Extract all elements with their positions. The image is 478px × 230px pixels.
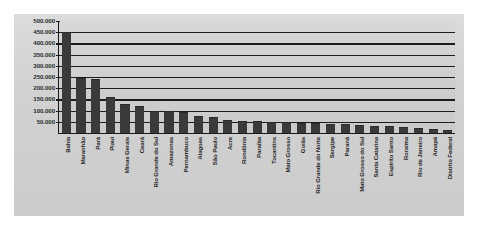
x-label-slot: Rio Grande do Sul	[146, 135, 161, 215]
bar	[150, 111, 159, 133]
bar-slot	[191, 21, 206, 133]
x-label-slot: São Paulo	[205, 135, 220, 215]
x-axis-category-label: Sergipe	[329, 137, 335, 158]
bar	[385, 126, 394, 133]
x-label-slot: Paraíba	[249, 135, 264, 215]
bar	[414, 128, 423, 133]
x-label-slot: Acre	[219, 135, 234, 215]
bar-slot	[382, 21, 397, 133]
x-axis-category-label: Amapá	[432, 137, 438, 157]
bar	[326, 124, 335, 133]
x-label-slot: Goiás	[293, 135, 308, 215]
x-axis-category-label: Alagoas	[197, 137, 203, 160]
bar	[106, 97, 115, 133]
plot-area	[58, 21, 455, 134]
bar-slot	[396, 21, 411, 133]
x-axis-category-label: Roraima	[403, 137, 409, 160]
x-label-slot: Alagoas	[190, 135, 205, 215]
bar-series	[59, 21, 455, 133]
x-axis-category-label: Bahia	[65, 137, 71, 153]
x-label-slot: Paraná	[337, 135, 352, 215]
x-label-slot: Espírito Santo	[381, 135, 396, 215]
x-axis-category-labels: BahiaMaranhãoParáPiauíMinas GeraisCearáR…	[58, 135, 454, 215]
x-label-slot: Maranhão	[73, 135, 88, 215]
x-axis-category-label: São Paulo	[212, 137, 218, 165]
x-label-slot: Rio de Janeiro	[410, 135, 425, 215]
x-axis-category-label: Minas Gerais	[124, 137, 130, 173]
x-axis-category-label: Paraíba	[256, 137, 262, 158]
x-label-slot: Santa Catarina	[366, 135, 381, 215]
y-axis-tick-label: 50.000	[37, 119, 55, 125]
bar-slot	[264, 21, 279, 133]
y-axis-tick-label: 200.000	[33, 85, 55, 91]
bar	[179, 112, 188, 133]
bar	[194, 116, 203, 133]
y-axis-tick-label: 100.000	[33, 107, 55, 113]
bar-slot	[118, 21, 133, 133]
bar-slot	[308, 21, 323, 133]
y-axis-tick-label: 300.000	[33, 63, 55, 69]
bar	[135, 106, 144, 133]
x-label-slot: Rondônia	[234, 135, 249, 215]
bar-slot	[294, 21, 309, 133]
y-axis-tick-labels: 500.000450.000400.000350.000300.000250.0…	[14, 14, 58, 136]
bar	[62, 32, 71, 133]
bar	[355, 125, 364, 133]
x-axis-category-label: Rio Grande do Sul	[153, 137, 159, 188]
bar-slot	[162, 21, 177, 133]
bar-slot	[323, 21, 338, 133]
bar	[443, 130, 452, 133]
y-axis-tick-label: 150.000	[33, 96, 55, 102]
x-label-slot: Bahia	[58, 135, 73, 215]
bar	[120, 104, 129, 133]
bar	[91, 79, 100, 133]
x-label-slot: Pernambuco	[175, 135, 190, 215]
x-label-slot: Mato Grosso do Sul	[351, 135, 366, 215]
x-axis-category-label: Rio de Janeiro	[417, 137, 423, 177]
x-axis-category-label: Mato Grosso do Sul	[359, 137, 365, 192]
x-axis-category-label: Amazonas	[168, 137, 174, 166]
x-axis-category-label: Tocantins	[271, 137, 277, 164]
x-axis-category-label: Paraná	[344, 137, 350, 156]
bar	[370, 126, 379, 133]
x-axis-category-label: Mato Grosso	[285, 137, 291, 173]
bar-slot	[338, 21, 353, 133]
bar	[223, 120, 232, 133]
x-label-slot: Amazonas	[161, 135, 176, 215]
bar	[253, 121, 262, 133]
x-axis-category-label: Distrito Federal	[447, 137, 453, 179]
y-axis-tick-label: 450.000	[33, 29, 55, 35]
bar-slot	[147, 21, 162, 133]
x-axis-category-label: Rio Grande do Norte	[315, 137, 321, 194]
bar-slot	[88, 21, 103, 133]
x-axis-category-label: Rondônia	[241, 137, 247, 164]
x-label-slot: Ceará	[131, 135, 146, 215]
bar-slot	[59, 21, 74, 133]
x-label-slot: Pará	[87, 135, 102, 215]
bar-slot	[367, 21, 382, 133]
x-axis-category-label: Santa Catarina	[373, 137, 379, 178]
x-label-slot: Mato Grosso	[278, 135, 293, 215]
y-axis-tick-label: 500.000	[33, 18, 55, 24]
bar	[311, 123, 320, 133]
x-axis-category-label: Maranhão	[80, 137, 86, 165]
x-label-slot: Roraima	[395, 135, 410, 215]
bar	[429, 129, 438, 133]
bar	[282, 122, 291, 133]
bar-slot	[132, 21, 147, 133]
x-label-slot: Tocantins	[263, 135, 278, 215]
bar	[209, 117, 218, 133]
x-axis-category-label: Pernambuco	[183, 137, 189, 172]
x-axis-category-label: Piauí	[109, 137, 115, 151]
bar-slot	[426, 21, 441, 133]
bar	[399, 127, 408, 133]
x-label-slot: Piauí	[102, 135, 117, 215]
bar-slot	[206, 21, 221, 133]
bar	[238, 121, 247, 133]
bar-slot	[440, 21, 455, 133]
x-label-slot: Minas Gerais	[117, 135, 132, 215]
bar-slot	[220, 21, 235, 133]
bar	[267, 122, 276, 133]
bar	[76, 78, 85, 133]
x-label-slot: Amapá	[425, 135, 440, 215]
